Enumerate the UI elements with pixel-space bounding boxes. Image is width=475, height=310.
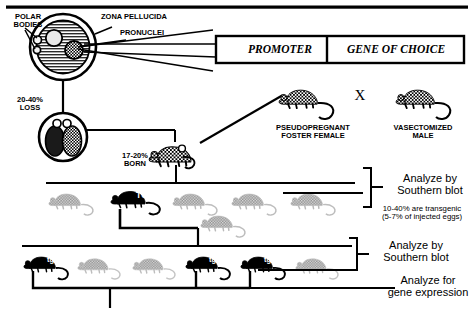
mouse-wild-g1-4 bbox=[291, 194, 335, 215]
pronuclei-label: PRONUCLEI bbox=[108, 29, 176, 37]
promoter-label: PROMOTER bbox=[232, 43, 328, 55]
gene-of-choice-label: GENE OF CHOICE bbox=[330, 43, 462, 55]
pseudopregnant-foster-female-illustration bbox=[279, 90, 333, 119]
tg-tag-g1: TG bbox=[136, 191, 148, 200]
transgenic-rate-note: 10-40% are transgenic (5-7% of injected … bbox=[368, 205, 475, 221]
mouse-wild-g2-1 bbox=[78, 259, 120, 279]
loss-percentage-label: 20-40% LOSS bbox=[2, 96, 58, 112]
mouse-transgenic-g2-1 bbox=[24, 257, 68, 279]
mouse-wild-g1-2 bbox=[173, 194, 217, 215]
mouse-wild-g1-5 bbox=[201, 216, 245, 237]
born-percentage-label: 17-20% BORN bbox=[107, 152, 163, 168]
mouse-wild-g1-3 bbox=[232, 194, 276, 215]
mouse-wild-g2-3 bbox=[296, 259, 338, 279]
generation2-mice-row bbox=[24, 257, 338, 308]
vasectomized-male-label: VASECTOMIZED MALE bbox=[378, 124, 468, 140]
zona-pellucida-label: ZONA PELLUCIDA bbox=[88, 13, 180, 21]
diagram-canvas: POLAR BODIES ZONA PELLUCIDA PRONUCLEI PR… bbox=[0, 0, 475, 310]
cross-symbol: X bbox=[352, 88, 368, 104]
analyze-southern-blot-1-label: Analyze by Southern blot bbox=[384, 173, 475, 196]
generation2-distribution-line bbox=[22, 228, 352, 246]
tg-tag-g2-3: tg bbox=[264, 256, 271, 264]
mouse-transgenic-g2-2 bbox=[186, 257, 230, 279]
tg-tag-g2-2: tg bbox=[209, 256, 216, 264]
mouse-wild-g2-2 bbox=[133, 259, 175, 279]
pseudopregnant-foster-female-label: PSEUDOPREGNANT FOSTER FEMALE bbox=[258, 124, 368, 140]
tg-tag-g2-1: tg bbox=[47, 256, 54, 264]
top-divider-rule bbox=[6, 6, 468, 9]
generation1-mice-row bbox=[49, 192, 335, 238]
mouse-wild-g1-1 bbox=[49, 194, 93, 215]
mouse-transgenic-g2-3 bbox=[241, 257, 285, 279]
polar-bodies-label: POLAR BODIES bbox=[2, 13, 54, 29]
analyze-southern-blot-2-label: Analyze by Southern blot bbox=[370, 240, 462, 263]
vasectomized-male-illustration bbox=[396, 90, 450, 119]
analyze-gene-expression-label: Analyze for gene expression bbox=[380, 275, 475, 298]
